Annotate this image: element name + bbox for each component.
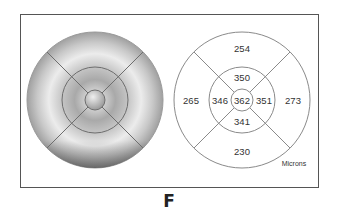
thickness-map	[27, 32, 163, 168]
outer-superior-value: 254	[234, 43, 250, 54]
outer-nasal-value: 273	[285, 95, 301, 106]
center-value: 362	[234, 95, 250, 106]
inner-temporal-value: 346	[212, 95, 228, 106]
figure-canvas: 362 350 351 341 346 254 273 230 265 Micr…	[0, 0, 338, 212]
inner-superior-value: 350	[234, 72, 250, 83]
units-label: Microns	[282, 160, 307, 167]
etdrs-grid: 362 350 351 341 346 254 273 230 265 Micr…	[174, 32, 310, 168]
panel-label: F	[0, 191, 338, 211]
inner-nasal-value: 351	[256, 95, 272, 106]
outer-inferior-value: 230	[234, 146, 250, 157]
outer-temporal-value: 265	[183, 95, 199, 106]
inner-inferior-value: 341	[234, 116, 250, 127]
fovea-center	[85, 90, 105, 110]
